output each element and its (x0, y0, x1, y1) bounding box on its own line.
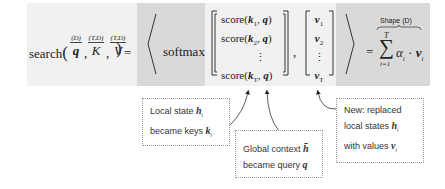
annotation-query: Global context h̄ became query q (235, 130, 323, 178)
values-line1: New: replaced (344, 103, 423, 118)
query-line2: became query q (243, 157, 322, 173)
annotation-values: New: replaced local states hi with value… (336, 98, 424, 163)
arrow-keys-icon (230, 92, 248, 125)
values-line2: local states hi (344, 118, 423, 138)
keys-line1: Local state hi (150, 103, 229, 123)
annotation-keys: Local state hi became keys ki (142, 98, 230, 146)
keys-line2: became keys ki (150, 123, 229, 143)
arrow-query-icon (267, 92, 279, 131)
arrow-values-icon (318, 92, 336, 109)
values-line3: with values vi (344, 138, 423, 158)
query-line1: Global context h̄ (243, 141, 322, 157)
